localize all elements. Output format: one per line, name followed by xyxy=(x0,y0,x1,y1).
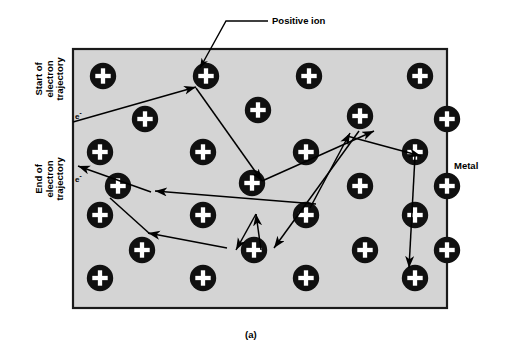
plus-icon-vertical-bar xyxy=(413,270,417,285)
positive-ion xyxy=(296,63,322,89)
plus-icon-vertical-bar xyxy=(201,144,205,159)
plus-icon-vertical-bar xyxy=(413,207,417,222)
plus-icon-vertical-bar xyxy=(304,144,308,159)
plus-icon-vertical-bar xyxy=(250,175,254,190)
electron-start-charge: - xyxy=(79,109,81,116)
start-of-electron-trajectory-label: Start of electron trajectory xyxy=(34,39,66,119)
positive-ion xyxy=(434,237,460,263)
positive-ion xyxy=(402,265,428,291)
figure-caption: (a) xyxy=(245,330,257,341)
plus-icon-vertical-bar xyxy=(204,68,208,83)
plus-icon-vertical-bar xyxy=(201,207,205,222)
electron-end-charge: - xyxy=(79,172,81,179)
plus-icon-vertical-bar xyxy=(358,178,362,193)
plus-icon-vertical-bar xyxy=(101,68,105,83)
plus-icon-vertical-bar xyxy=(358,108,362,123)
positive-ion xyxy=(434,106,460,132)
positive-ion xyxy=(245,97,271,123)
plus-icon-vertical-bar xyxy=(201,270,205,285)
plus-icon-vertical-bar xyxy=(98,207,102,222)
positive-ion xyxy=(193,63,219,89)
plus-icon-vertical-bar xyxy=(445,178,449,193)
plus-icon-vertical-bar xyxy=(98,144,102,159)
positive-ion xyxy=(293,265,319,291)
plus-icon-vertical-bar xyxy=(418,68,422,83)
end-of-electron-trajectory-label: End of electron trajectory xyxy=(34,139,66,219)
electron-scattering-diagram: Start of electron trajectory End of elec… xyxy=(0,0,508,361)
positive-ion xyxy=(129,237,155,263)
metal-label: Metal xyxy=(454,161,478,172)
positive-ion xyxy=(407,63,433,89)
positive-ion-label: Positive ion xyxy=(272,16,325,27)
plus-icon-vertical-bar xyxy=(363,242,367,257)
positive-ion xyxy=(190,265,216,291)
positive-ion xyxy=(347,173,373,199)
plus-icon-vertical-bar xyxy=(445,242,449,257)
plus-icon-vertical-bar xyxy=(256,102,260,117)
plus-icon-vertical-bar xyxy=(307,68,311,83)
plus-icon-vertical-bar xyxy=(252,242,256,257)
positive-ion xyxy=(87,139,113,165)
positive-ion xyxy=(90,63,116,89)
electron-end-label: e- xyxy=(75,175,82,184)
positive-ion xyxy=(132,106,158,132)
positive-ion xyxy=(239,170,265,196)
plus-icon-vertical-bar xyxy=(98,270,102,285)
plus-icon-vertical-bar xyxy=(140,242,144,257)
plus-icon-vertical-bar xyxy=(445,111,449,126)
positive-ion xyxy=(293,202,319,228)
positive-ion xyxy=(87,265,113,291)
plus-icon-vertical-bar xyxy=(304,270,308,285)
positive-ion xyxy=(87,202,113,228)
electron-start-label: e- xyxy=(75,112,82,121)
plus-icon-vertical-bar xyxy=(304,207,308,222)
positive-ion xyxy=(352,237,378,263)
positive-ion xyxy=(347,103,373,129)
positive-ion xyxy=(402,202,428,228)
positive-ion xyxy=(434,173,460,199)
positive-ion xyxy=(241,237,267,263)
positive-ion xyxy=(190,202,216,228)
positive-ion xyxy=(190,139,216,165)
plus-icon-vertical-bar xyxy=(143,111,147,126)
